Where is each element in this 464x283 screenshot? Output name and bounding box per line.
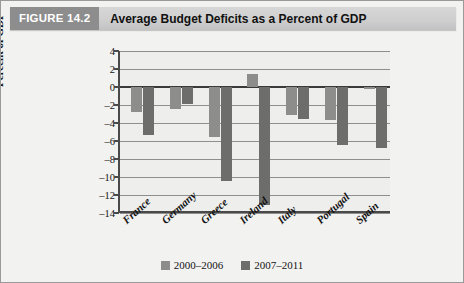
bar: [143, 87, 154, 135]
bar-group: [237, 51, 276, 211]
bar: [364, 87, 375, 89]
y-axis-tick-labels: 420–2–4–6–8–10–12–14: [86, 51, 115, 213]
bar-group: [275, 51, 314, 211]
figure-header-bar: FIGURE 14.2 Average Budget Deficits as a…: [10, 7, 456, 30]
bar: [221, 87, 232, 181]
y-tick-label: –6: [89, 136, 115, 147]
bar: [247, 74, 258, 88]
y-tick-label: –14: [89, 208, 115, 219]
y-tick-label: 4: [89, 46, 115, 57]
bar-group: [159, 51, 198, 211]
bar: [337, 87, 348, 145]
bar: [209, 87, 220, 137]
bar-group: [314, 51, 353, 211]
x-axis-tick-labels: FranceGermanyGreeceIrelandItalyPortugalS…: [118, 213, 390, 259]
y-axis-title: Percent of GDP: [0, 13, 5, 87]
legend-swatch: [161, 261, 170, 270]
chart-legend: 2000–20062007–2011: [1, 259, 463, 271]
y-tick-label: –8: [89, 154, 115, 165]
bar: [298, 87, 309, 119]
legend-item: 2007–2011: [241, 259, 303, 271]
bar: [376, 87, 387, 148]
y-tick-label: 0: [89, 82, 115, 93]
bar-group: [353, 51, 392, 211]
y-tick-label: –10: [89, 172, 115, 183]
y-tick-label: –4: [89, 118, 115, 129]
legend-label: 2007–2011: [254, 259, 303, 271]
figure-number-badge: FIGURE 14.2: [10, 7, 99, 30]
y-tick-label: –2: [89, 100, 115, 111]
bar: [325, 87, 336, 120]
bar: [182, 87, 193, 104]
y-tick-label: 2: [89, 64, 115, 75]
bar-group: [198, 51, 237, 211]
legend-label: 2000–2006: [174, 259, 224, 271]
bar: [259, 87, 270, 205]
bar: [286, 87, 297, 115]
figure-container: FIGURE 14.2 Average Budget Deficits as a…: [0, 0, 464, 283]
y-tick-label: –12: [89, 190, 115, 201]
plot-frame: [118, 51, 390, 213]
legend-swatch: [241, 261, 250, 270]
bar-group: [120, 51, 159, 211]
bar: [170, 87, 181, 109]
figure-title: Average Budget Deficits as a Percent of …: [110, 12, 366, 26]
legend-item: 2000–2006: [161, 259, 224, 271]
plot-area: [120, 51, 390, 211]
bar: [131, 87, 142, 112]
